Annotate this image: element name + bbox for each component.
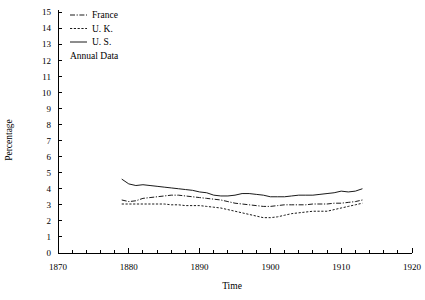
chart-legend: FranceU. K.U. S.Annual Data (70, 10, 119, 61)
y-tick-label: 0 (47, 248, 52, 258)
x-axis-ticks: 187018801890190019101920 (49, 248, 422, 272)
y-tick-label: 8 (47, 120, 52, 130)
y-tick-label: 11 (42, 72, 51, 82)
y-tick-label: 6 (47, 152, 52, 162)
legend-label: U. K. (92, 24, 113, 34)
x-axis-title: Time (222, 281, 242, 291)
line-chart: 0123456789101112131415 18701880189019001… (0, 0, 425, 300)
series-lines (122, 179, 363, 218)
y-tick-label: 13 (42, 39, 52, 49)
chart-container: 0123456789101112131415 18701880189019001… (0, 0, 425, 300)
x-tick-label: 1870 (49, 262, 68, 272)
y-tick-label: 7 (47, 136, 52, 146)
y-axis-ticks: 0123456789101112131415 (42, 7, 62, 258)
y-tick-label: 2 (47, 216, 52, 226)
y-tick-label: 9 (47, 104, 52, 114)
y-axis-title: Percentage (4, 119, 14, 161)
x-tick-label: 1900 (261, 262, 280, 272)
x-tick-label: 1890 (191, 262, 210, 272)
legend-label: France (92, 10, 118, 20)
legend-label: U. S. (92, 37, 111, 47)
y-tick-label: 3 (47, 200, 52, 210)
series-line-u-k (122, 203, 363, 217)
x-tick-label: 1910 (332, 262, 351, 272)
y-tick-label: 14 (42, 23, 52, 33)
y-tick-label: 4 (47, 184, 52, 194)
y-tick-label: 15 (42, 7, 52, 17)
y-tick-label: 12 (42, 56, 51, 66)
series-line-u-s (122, 179, 363, 197)
x-tick-label: 1880 (120, 262, 139, 272)
x-tick-label: 1920 (403, 262, 422, 272)
y-tick-label: 10 (42, 88, 52, 98)
legend-note-annual-data: Annual Data (70, 51, 119, 61)
series-line-france (122, 195, 363, 206)
y-tick-label: 1 (47, 232, 52, 242)
y-tick-label: 5 (47, 168, 52, 178)
